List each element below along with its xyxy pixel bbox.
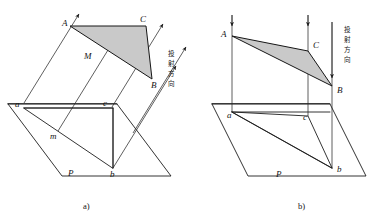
label-b-b: b bbox=[337, 164, 342, 174]
label-c-a: c bbox=[103, 98, 107, 108]
label-M-a: M bbox=[83, 51, 92, 61]
panel-b: A C B a c b P 投 射 方 向 b) bbox=[212, 15, 366, 211]
label-b-a: b bbox=[110, 169, 115, 179]
label-A-a: A bbox=[61, 18, 68, 28]
annotation-projection-direction-b: 投 射 方 向 bbox=[344, 25, 351, 64]
label-C-a: C bbox=[140, 14, 147, 24]
cjk-char-xiang-b: 向 bbox=[344, 55, 351, 64]
cjk-char-tou-a: 投 bbox=[168, 49, 175, 58]
segment-a-b-b bbox=[232, 112, 332, 168]
label-a-b: a bbox=[227, 110, 232, 120]
projection-figure: A C B M a c b m P 投 射 方 向 a) bbox=[0, 0, 376, 219]
label-P-a: P bbox=[67, 168, 74, 178]
figure-canvas: A C B M a c b m P 投 射 方 向 a) bbox=[0, 0, 376, 219]
panel-a: A C B M a c b m P 投 射 方 向 a) bbox=[8, 14, 186, 211]
label-c-b: c bbox=[303, 112, 307, 122]
projection-rays-b bbox=[232, 15, 332, 168]
label-m-a: m bbox=[50, 131, 57, 141]
projection-ray-m bbox=[58, 50, 108, 131]
cjk-char-tou-b: 投 bbox=[344, 25, 351, 34]
caption-a: a) bbox=[83, 201, 90, 211]
plane-p-outline-a bbox=[8, 104, 171, 176]
projection-ray-b bbox=[113, 66, 176, 168]
cjk-char-fang-b: 方 bbox=[344, 45, 351, 54]
cjk-char-fang-a: 方 bbox=[168, 69, 175, 78]
label-a-a: a bbox=[15, 99, 20, 109]
caption-b: b) bbox=[298, 201, 305, 211]
projection-ray-a bbox=[24, 14, 79, 103]
cjk-char-she-a: 射 bbox=[168, 59, 175, 68]
label-C-b: C bbox=[313, 40, 320, 50]
cjk-char-she-b: 射 bbox=[344, 35, 351, 44]
space-triangle-abc-a bbox=[70, 26, 152, 79]
label-P-b: P bbox=[275, 169, 282, 179]
label-B-a: B bbox=[151, 80, 157, 90]
label-B-b: B bbox=[337, 85, 343, 95]
projected-triangle-abc-a bbox=[24, 108, 113, 168]
label-A-b: A bbox=[220, 29, 227, 39]
cjk-char-xiang-a: 向 bbox=[168, 79, 175, 88]
annotation-projection-direction-a: 投 射 方 向 bbox=[168, 49, 175, 88]
